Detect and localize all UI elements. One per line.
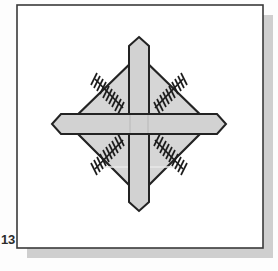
figure-panel: 13 [0,0,278,271]
figure-number-label: 13 [1,233,15,247]
figure-illustration [0,0,278,271]
horizontal-bar [52,114,226,134]
